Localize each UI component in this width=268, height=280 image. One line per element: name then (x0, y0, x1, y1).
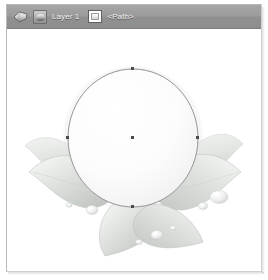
node-handle-bottom[interactable] (131, 205, 134, 208)
layer-label: Layer 1 (52, 12, 79, 22)
editor-window: Layer 1 <Path> (6, 4, 262, 272)
layer-visibility-icon[interactable] (33, 10, 47, 24)
node-arrow-icon[interactable] (13, 10, 28, 24)
node-handle-right[interactable] (196, 136, 199, 139)
window-shadow-right (262, 7, 265, 273)
window-shadow-bottom (8, 272, 264, 275)
path-object-icon[interactable] (88, 10, 102, 23)
status-bar: Layer 1 <Path> (7, 5, 261, 29)
selection-label: <Path> (107, 12, 133, 22)
lotus-flower-illustration (7, 30, 261, 271)
app-root: Layer 1 <Path> (0, 0, 268, 280)
drawing-canvas[interactable] (7, 30, 261, 271)
node-handle-top[interactable] (131, 67, 134, 70)
node-handle-left[interactable] (66, 136, 69, 139)
node-handle-center[interactable] (131, 136, 134, 139)
leaf-bottom-right (133, 204, 203, 248)
